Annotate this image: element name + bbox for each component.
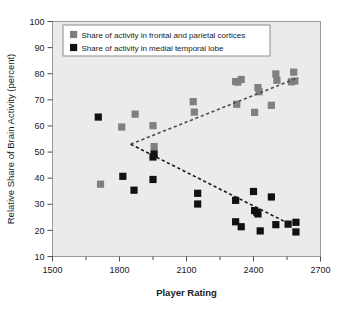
data-point-marker: [194, 190, 201, 197]
data-point-marker: [250, 188, 257, 195]
x-axis-tick-label: 1500: [42, 265, 62, 275]
data-point-marker: [238, 223, 245, 230]
data-point-marker: [268, 102, 275, 109]
data-point-marker: [149, 176, 156, 183]
x-axis-tick-label: 2100: [176, 265, 196, 275]
data-point-marker: [257, 227, 264, 234]
legend-label-2: Share of activity in medial temporal lob…: [82, 44, 224, 53]
data-point-marker: [292, 228, 299, 235]
legend-swatch-2: [70, 44, 77, 51]
y-axis-tick-label: 20: [34, 226, 44, 236]
data-point-marker: [95, 113, 102, 120]
y-axis-tick-label: 100: [29, 17, 44, 27]
chart-figure: 1500180021002400270010203040506070809010…: [0, 0, 342, 310]
data-point-marker: [97, 181, 104, 188]
legend-swatch-1: [70, 31, 77, 38]
data-point-marker: [290, 69, 297, 76]
data-point-marker: [119, 173, 126, 180]
data-point-marker: [273, 77, 280, 84]
plot-area: [53, 22, 321, 257]
legend-label-1: Share of activity in frontal and parieta…: [82, 31, 246, 40]
x-axis-title: Player Rating: [156, 287, 217, 298]
y-axis-tick-label: 50: [34, 147, 44, 157]
data-point-marker: [251, 109, 258, 116]
x-axis-tick-label: 2400: [243, 265, 263, 275]
y-axis-tick-label: 60: [34, 121, 44, 131]
y-axis-tick-label: 10: [34, 252, 44, 262]
y-axis-tick-label: 90: [34, 43, 44, 53]
data-point-marker: [149, 153, 156, 160]
chart-legend[interactable]: Share of activity in frontal and parieta…: [63, 25, 270, 56]
y-axis-tick-label: 40: [34, 173, 44, 183]
data-point-marker: [132, 111, 139, 118]
y-axis-title: Relative Share of Brain Activity (percen…: [5, 54, 16, 225]
plot-background: [53, 22, 321, 257]
y-axis-tick-label: 30: [34, 199, 44, 209]
data-point-marker: [191, 109, 198, 116]
scatter-plot: 1500180021002400270010203040506070809010…: [0, 0, 342, 310]
data-point-marker: [272, 70, 279, 77]
y-axis-tick-label: 70: [34, 95, 44, 105]
data-point-marker: [254, 210, 261, 217]
data-point-marker: [118, 123, 125, 130]
y-axis-tick-label: 80: [34, 69, 44, 79]
data-point-marker: [238, 76, 245, 83]
data-point-marker: [130, 187, 137, 194]
data-point-marker: [268, 193, 275, 200]
data-point-marker: [232, 197, 239, 204]
data-point-marker: [190, 98, 197, 105]
data-point-marker: [149, 122, 156, 129]
data-point-marker: [194, 200, 201, 207]
data-point-marker: [151, 143, 158, 150]
x-axis-tick-label: 1800: [109, 265, 129, 275]
data-point-marker: [272, 221, 279, 228]
x-axis-tick-label: 2700: [310, 265, 330, 275]
data-point-marker: [292, 219, 299, 226]
